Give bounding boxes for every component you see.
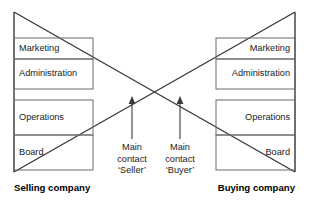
right-contact-arrow-icon (177, 96, 184, 139)
left-level-label-board: Board (19, 148, 44, 157)
right-contact-line-1: Main (155, 142, 205, 154)
right-arrow-head (177, 96, 184, 104)
right-level-label-marketing: Marketing (216, 44, 290, 53)
left-contact-line-2: contact (107, 154, 157, 166)
bowtie-diagram-graphic (0, 0, 309, 210)
left-contact-annotation: Main contact ‘Seller’ (107, 142, 157, 177)
left-arrow-head (129, 96, 136, 104)
left-contact-arrow-icon (129, 96, 136, 139)
left-level-label-marketing: Marketing (19, 44, 59, 53)
diagram-canvas: Marketing Administration Operations Boar… (0, 0, 309, 210)
right-level-label-board: Board (216, 148, 290, 157)
selling-company-title: Selling company (14, 183, 90, 193)
left-contact-line-3: ‘Seller’ (107, 165, 157, 177)
left-level-label-administration: Administration (19, 69, 77, 78)
right-level-label-administration: Administration (216, 69, 290, 78)
right-contact-annotation: Main contact ‘Buyer’ (155, 142, 205, 177)
buying-company-title: Buying company (145, 183, 295, 193)
right-contact-line-3: ‘Buyer’ (155, 165, 205, 177)
right-contact-line-2: contact (155, 154, 205, 166)
right-level-label-operations: Operations (216, 113, 290, 122)
left-contact-line-1: Main (107, 142, 157, 154)
left-level-label-operations: Operations (19, 113, 64, 122)
